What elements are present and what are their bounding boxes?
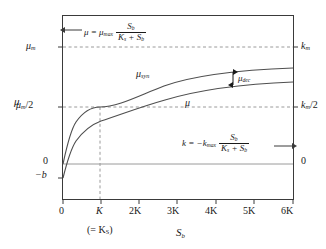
x-axis-title: Sb: [176, 227, 185, 238]
x-axis-annotation-ks: (= KS): [87, 225, 113, 235]
y-axis-label-zero-left: 0: [43, 156, 48, 166]
x-axis-tick-label-K: K: [96, 206, 103, 216]
x-axis-tick-label-0: 0: [59, 206, 64, 216]
equation-top-lhs: μ = μmax: [84, 28, 113, 37]
curve-label-mu: μ: [185, 98, 190, 108]
y-axis-label-k-m-half: km/2: [301, 100, 318, 110]
y-axis-title: μ: [14, 96, 20, 107]
x-axis-tick-label-2K: 2K: [129, 206, 141, 216]
curve-mu-syn: [63, 68, 293, 164]
y-axis-label-k-m: km: [301, 41, 310, 51]
y-axis-label-zero-right: 0: [301, 156, 306, 166]
equation-bottom-numerator: Sb: [228, 133, 239, 142]
x-axis-tick-label-3K: 3K: [167, 206, 179, 216]
equation-mu-monod: μ = μmax Sb Ks + Sb: [84, 22, 146, 42]
x-axis-tick-label-6K: 6K: [281, 206, 293, 216]
equation-k-monod: k = −kmax Sb Ks + Sb: [182, 133, 249, 153]
monod-kinetics-figure: μm μm/2 0 −b μ km km/2 0 0 K 2K 3K 4K 5K…: [0, 0, 326, 249]
equation-bottom-fraction: Sb Ks + Sb: [219, 133, 249, 153]
curve-label-mu-syn: μsyn: [136, 69, 149, 79]
equation-top-denominator: Ks + Sb: [116, 33, 146, 42]
y-axis-label-minus-b: −b: [35, 170, 47, 180]
plot-canvas: [0, 0, 326, 249]
y-axis-label-mu-m: μm: [26, 41, 36, 51]
equation-top-fraction: Sb Ks + Sb: [116, 22, 146, 42]
annotation-label-mu-dec: μdec: [238, 74, 250, 83]
x-axis-tick-label-4K: 4K: [205, 206, 217, 216]
x-axis-tick-label-5K: 5K: [243, 206, 255, 216]
equation-bottom-denominator: Ks + Sb: [219, 144, 249, 153]
equation-bottom-lhs: k = −kmax: [182, 139, 216, 148]
equation-top-numerator: Sb: [125, 22, 136, 31]
